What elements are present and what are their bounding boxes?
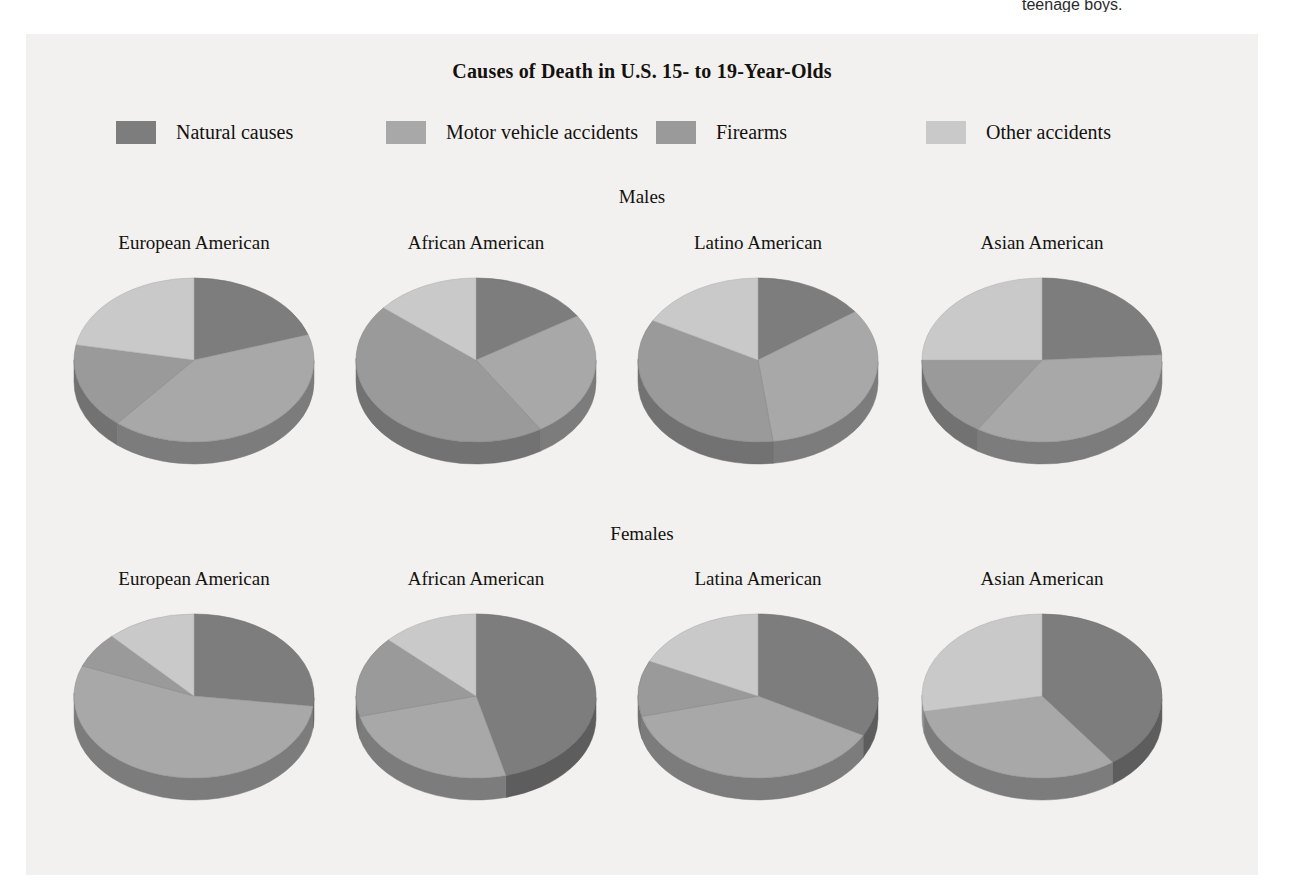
pie-cell: European American <box>54 230 334 472</box>
pie-cell: African American <box>336 566 616 808</box>
section-label-females: Females <box>26 523 1258 545</box>
pie-cell: Asian American <box>902 566 1182 808</box>
pie-caption: African American <box>336 230 616 256</box>
pie-cell: Asian American <box>902 230 1182 472</box>
legend-label: Firearms <box>716 121 787 144</box>
pie-cell: Latina American <box>618 566 898 808</box>
pie-chart <box>351 272 601 472</box>
legend-item-firearms: Firearms <box>656 121 926 144</box>
legend-swatch-icon <box>926 121 966 144</box>
pie-caption: Latino American <box>618 230 898 256</box>
page-title: Causes of Death in U.S. 15- to 19-Year-O… <box>26 60 1258 83</box>
pie-cell: African American <box>336 230 616 472</box>
legend-label: Other accidents <box>986 121 1111 144</box>
legend-swatch-icon <box>386 121 426 144</box>
pie-caption: African American <box>336 566 616 592</box>
legend-swatch-icon <box>656 121 696 144</box>
legend-item-other-accidents: Other accidents <box>926 121 1196 144</box>
pie-caption: Asian American <box>902 566 1182 592</box>
section-label-males: Males <box>26 186 1258 208</box>
pie-chart <box>917 608 1167 808</box>
pie-chart <box>351 608 601 808</box>
pie-caption: European American <box>54 566 334 592</box>
pie-row-females: European American African American Latin… <box>26 566 1258 826</box>
pie-row-males: European American African American Latin… <box>26 230 1258 490</box>
pie-chart <box>69 272 319 472</box>
pie-cell: Latino American <box>618 230 898 472</box>
legend-label: Natural causes <box>176 121 293 144</box>
legend-label: Motor vehicle accidents <box>446 121 638 144</box>
chart-legend: Natural causes Motor vehicle accidents F… <box>116 121 1196 144</box>
pie-caption: Latina American <box>618 566 898 592</box>
pie-chart <box>633 608 883 808</box>
legend-swatch-icon <box>116 121 156 144</box>
pie-cell: European American <box>54 566 334 808</box>
figure-panel: Causes of Death in U.S. 15- to 19-Year-O… <box>26 34 1258 875</box>
pie-caption: Asian American <box>902 230 1182 256</box>
pie-caption: European American <box>54 230 334 256</box>
legend-item-natural-causes: Natural causes <box>116 121 386 144</box>
cropped-caption-text: teenage boys. <box>1022 0 1262 12</box>
legend-item-motor-vehicle-accidents: Motor vehicle accidents <box>386 121 656 144</box>
pie-chart <box>633 272 883 472</box>
pie-chart <box>69 608 319 808</box>
pie-chart <box>917 272 1167 472</box>
